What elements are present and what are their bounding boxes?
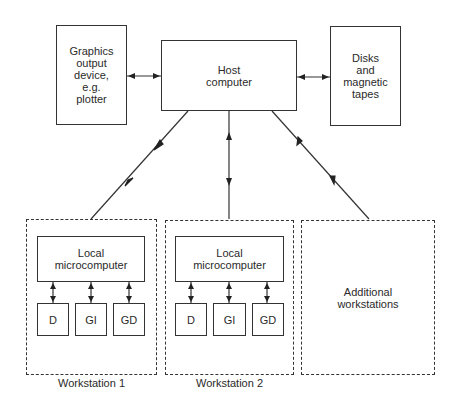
host-computer-box: Host computer (161, 40, 297, 111)
graphics-output-device-box: Graphics output device, e.g. plotter (56, 25, 127, 125)
host-computer-label: Host computer (206, 64, 252, 88)
additional-workstations-boundary: Additional workstations (301, 220, 435, 375)
ws1-device-d: D (37, 303, 69, 336)
ws2-device-d: D (175, 303, 207, 336)
ws1-local-microcomputer: Local microcomputer (37, 236, 145, 282)
arrow-host-ws1 (91, 111, 188, 219)
workstation-1-label: Workstation 1 (26, 377, 157, 389)
ws1-device-gi: GI (75, 303, 107, 336)
disks-tapes-box: Disks and magnetic tapes (330, 26, 401, 126)
disks-tapes-label: Disks and magnetic tapes (343, 52, 388, 100)
workstation-2-label: Workstation 2 (165, 377, 294, 389)
ws1-device-gi-label: GI (85, 314, 97, 326)
ws1-device-d-label: D (49, 314, 57, 326)
ws1-device-gd-label: GD (121, 314, 138, 326)
ws2-device-gd: GD (252, 303, 284, 336)
graphics-output-device-label: Graphics output device, e.g. plotter (69, 45, 113, 105)
arrow-host-additional (272, 111, 369, 219)
ws2-device-gi: GI (213, 303, 246, 336)
ws1-device-gd: GD (113, 303, 145, 336)
ws2-device-gd-label: GD (260, 314, 277, 326)
ws2-device-d-label: D (187, 314, 195, 326)
ws1-local-label: Local microcomputer (55, 247, 128, 271)
ws2-device-gi-label: GI (224, 314, 236, 326)
additional-workstations-label: Additional workstations (337, 286, 398, 310)
ws2-local-label: Local microcomputer (193, 247, 266, 271)
ws2-local-microcomputer: Local microcomputer (175, 236, 284, 282)
